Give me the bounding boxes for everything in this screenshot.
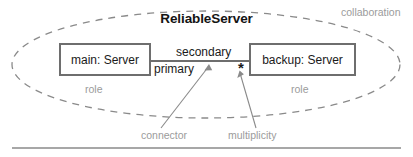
connector-leader-arrowhead (204, 64, 212, 71)
annotation-connector: connector (141, 130, 187, 141)
connector-end-label-secondary: secondary (176, 46, 231, 58)
multiplicity-marker: * (238, 60, 244, 75)
part-label-backup: backup: Server (262, 53, 343, 67)
part-box-main[interactable]: main: Server (59, 43, 151, 76)
part-box-backup[interactable]: backup: Server (249, 43, 356, 76)
part-label-main: main: Server (71, 53, 139, 67)
diagram-canvas: ReliableServer collaboration main: Serve… (0, 0, 413, 157)
annotation-collaboration: collaboration (341, 7, 401, 18)
connector-end-label-primary: primary (154, 63, 194, 75)
annotation-role-main: role (85, 84, 103, 95)
annotation-role-backup: role (291, 84, 309, 95)
annotation-multiplicity: multiplicity (228, 130, 276, 141)
multiplicity-leader-line (240, 73, 256, 128)
